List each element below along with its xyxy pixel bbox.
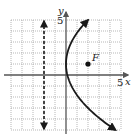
focus-point [85, 61, 90, 66]
y-tick-label-5: 5 [57, 15, 63, 26]
x-axis-label: x [125, 76, 131, 87]
x-tick-label-5: 5 [117, 77, 123, 88]
focus-label: F [91, 52, 100, 63]
parabola-chart: F x y 5 5 [0, 0, 138, 135]
